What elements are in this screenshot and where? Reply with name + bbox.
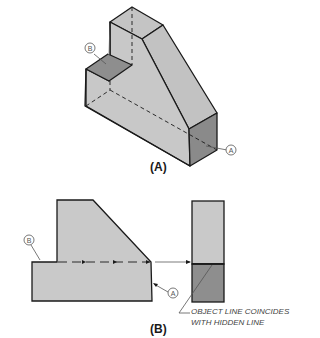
front-view [31, 200, 191, 301]
isometric-view [85, 7, 227, 166]
callout-a-a-text: A [229, 147, 234, 154]
side-view [179, 201, 224, 313]
note-line-1: OBJECT LINE COINCIDES [191, 307, 289, 316]
note-line-2: WITH HIDDEN LINE [191, 318, 264, 327]
callout-a-b-text: A [171, 290, 176, 297]
callout-b-a-text: B [88, 45, 93, 52]
caption-b: (B) [150, 322, 167, 336]
callout-b-b-text: B [27, 237, 32, 244]
caption-a: (A) [150, 160, 167, 174]
